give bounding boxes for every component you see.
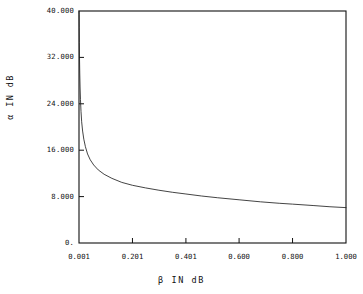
- x-axis-tick-label: 0.800: [282, 252, 304, 261]
- y-axis-tick-label: 32.000: [47, 52, 74, 61]
- x-axis-title: β IN dB: [0, 275, 363, 285]
- x-axis-tick-label: 0.600: [228, 252, 250, 261]
- plot-frame: [79, 11, 346, 243]
- x-axis-tick-label: 0.001: [68, 252, 90, 261]
- y-axis-tick-label: 8.000: [51, 192, 74, 201]
- chart-figure: 0.8.00016.00024.00032.00040.000 0.0010.2…: [0, 0, 363, 294]
- y-axis-tick-label: 16.000: [47, 145, 74, 154]
- x-axis-tick-label: 0.401: [175, 252, 197, 261]
- y-axis-tick-label: 24.000: [47, 99, 74, 108]
- y-axis-tick-label: 40.000: [47, 6, 74, 15]
- axis-tick-marks: [79, 57, 293, 243]
- data-curve-line: [79, 11, 346, 208]
- x-axis-tick-label: 1.000: [335, 252, 357, 261]
- y-axis-title: α IN dB: [5, 65, 15, 129]
- y-axis-tick-label: 0.: [65, 238, 74, 247]
- x-axis-tick-label: 0.201: [122, 252, 144, 261]
